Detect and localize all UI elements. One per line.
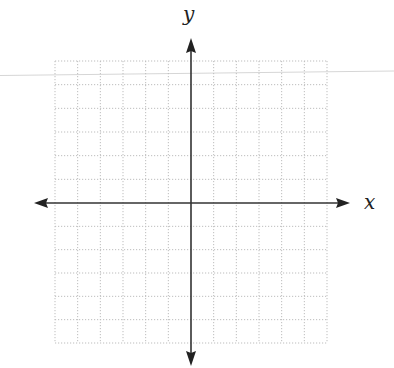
y-axis-label: y: [182, 2, 195, 26]
coordinate-plane-svg: x y: [0, 0, 394, 368]
y-axis-down-arrow-icon: [186, 351, 196, 366]
x-axis-right-arrow-icon: [336, 198, 350, 208]
coordinate-plane: x y: [0, 0, 394, 368]
y-axis-up-arrow-icon: [186, 38, 196, 53]
x-axis-label: x: [364, 190, 375, 214]
x-axis-left-arrow-icon: [34, 198, 48, 208]
scan-artifact-line: [0, 71, 394, 76]
